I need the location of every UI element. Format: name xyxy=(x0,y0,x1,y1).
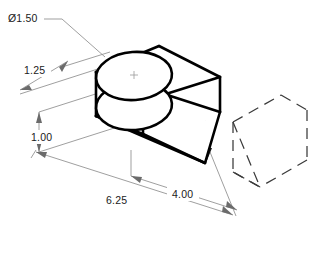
dim-dia-leader-slant xyxy=(62,19,105,57)
dim-dia-label: Ø1.50 xyxy=(8,12,38,24)
dim-6-25-arrow-left xyxy=(36,152,47,158)
technical-drawing-canvas: 6.25 4.00 xyxy=(0,0,328,263)
phantom-edge-interior-diagonal xyxy=(233,122,260,187)
dim-1-00-arrow-top xyxy=(36,112,42,123)
dim-1-25-label: 1.25 xyxy=(24,64,45,76)
dim-6-25-label: 6.25 xyxy=(106,194,127,206)
phantom-edge-bottom-right xyxy=(260,160,307,187)
dim-6-25-ext-left xyxy=(31,150,36,158)
dim-1-25-arrow-bottom xyxy=(20,85,32,90)
phantom-reference-box xyxy=(233,95,307,187)
dim-1-00-label: 1.00 xyxy=(31,131,52,143)
dim-1-25-arrow-top xyxy=(59,61,68,72)
isometric-drawing-svg: 6.25 4.00 xyxy=(0,0,328,263)
phantom-edge-lower-tail xyxy=(233,172,260,187)
cylindrical-boss xyxy=(94,49,173,132)
dimension-diameter-1-50: Ø1.50 xyxy=(8,12,105,57)
dim-4-00-arrow-left xyxy=(131,176,142,183)
phantom-edge-top-right xyxy=(281,95,307,110)
phantom-edge-top-left xyxy=(233,95,281,122)
dim-4-00-label: 4.00 xyxy=(172,188,193,200)
